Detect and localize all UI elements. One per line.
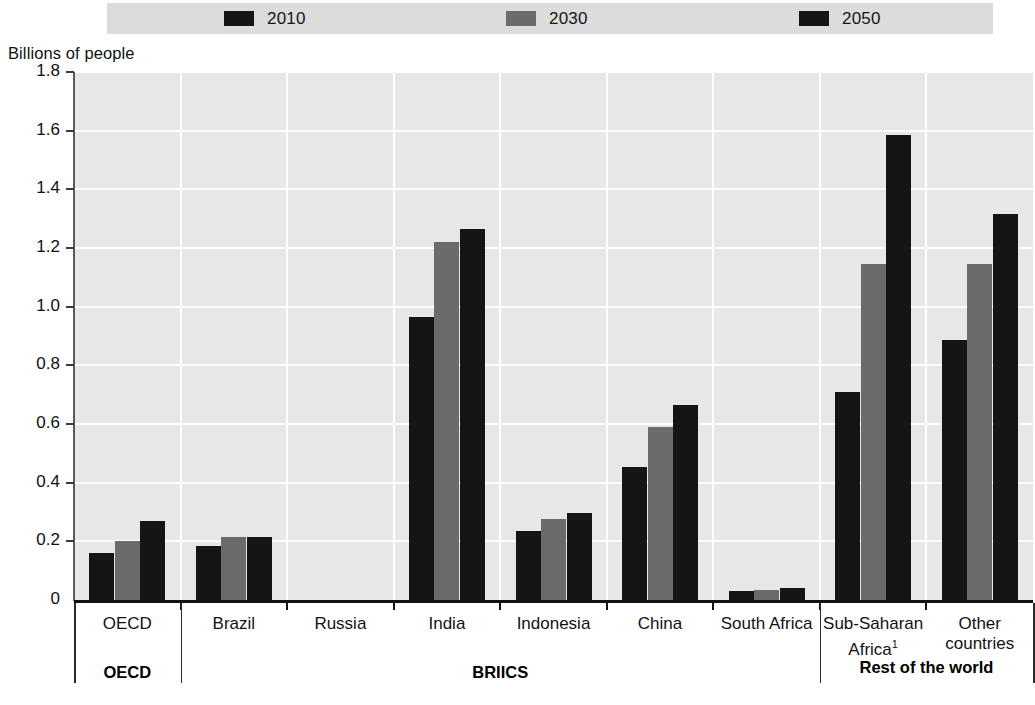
y-axis-tick — [66, 482, 74, 484]
legend-item-2030: 2030 — [506, 3, 588, 34]
x-axis-tick — [393, 603, 395, 610]
legend-item-2050: 2050 — [799, 3, 881, 34]
gridline-vertical — [819, 72, 821, 600]
bar-2030 — [754, 590, 779, 600]
bar-2050 — [140, 521, 165, 600]
bar-2050 — [567, 513, 592, 600]
x-axis-tick — [712, 603, 714, 610]
x-axis-line — [74, 600, 1033, 603]
y-axis-tick-label: 0 — [4, 589, 60, 609]
y-axis-tick-label: 1.6 — [4, 120, 60, 140]
bar-2030 — [115, 541, 140, 600]
gridline-vertical — [925, 72, 927, 600]
legend-label-2050: 2050 — [842, 9, 881, 29]
plot-frame — [74, 72, 1033, 600]
bar-2030 — [861, 264, 886, 600]
bar-2030 — [541, 519, 566, 600]
y-axis-tick — [66, 364, 74, 366]
y-axis-line — [73, 72, 75, 601]
bar-2010 — [942, 340, 967, 600]
legend-swatch-2030 — [506, 11, 536, 26]
y-axis-tick — [66, 540, 74, 542]
category-label-india: India — [394, 614, 501, 634]
bar-2010 — [516, 531, 541, 600]
gridline-vertical — [499, 72, 501, 600]
legend-swatch-2010 — [224, 11, 254, 26]
bar-2050 — [993, 214, 1018, 600]
bar-2010 — [409, 317, 434, 600]
y-axis-tick-label: 0.8 — [4, 354, 60, 374]
bar-2010 — [196, 546, 221, 600]
legend-swatch-2050 — [799, 11, 829, 26]
bar-2030 — [648, 427, 673, 600]
bar-2030 — [221, 537, 246, 600]
y-axis-tick-label: 1.4 — [4, 178, 60, 198]
bar-2030 — [434, 242, 459, 600]
bar-2050 — [886, 135, 911, 600]
bar-2050 — [460, 229, 485, 600]
x-axis-tick — [286, 603, 288, 610]
y-axis-tick-label: 1.2 — [4, 237, 60, 257]
y-axis-tick — [66, 247, 74, 249]
group-label-briics: BRIICS — [181, 663, 820, 682]
category-label-south-africa: South Africa — [713, 614, 820, 634]
gridline-horizontal — [74, 130, 1033, 132]
bar-2050 — [780, 588, 805, 600]
gridline-vertical — [712, 72, 714, 600]
y-axis-tick — [66, 306, 74, 308]
legend-label-2010: 2010 — [267, 9, 306, 29]
y-axis-tick-label: 0.6 — [4, 413, 60, 433]
group-label-oecd: OECD — [74, 663, 181, 682]
gridline-horizontal — [74, 72, 1033, 73]
bar-2030 — [967, 264, 992, 600]
legend-label-2030: 2030 — [549, 9, 588, 29]
bar-2010 — [835, 392, 860, 600]
x-axis-tick — [606, 603, 608, 610]
y-axis-tick-label: 0.2 — [4, 530, 60, 550]
group-divider — [181, 603, 183, 683]
category-label-oecd: OECD — [74, 614, 181, 634]
x-axis-tick — [499, 603, 501, 610]
group-divider — [820, 603, 822, 683]
bar-2010 — [622, 467, 647, 600]
category-label-china: China — [607, 614, 714, 634]
y-axis-tick-label: 1.8 — [4, 61, 60, 81]
y-axis-tick-label: 0.4 — [4, 472, 60, 492]
category-label-brazil: Brazil — [181, 614, 288, 634]
category-label-russia: Russia — [287, 614, 394, 634]
y-axis-tick — [66, 130, 74, 132]
bar-2010 — [89, 553, 114, 600]
y-axis-tick — [66, 71, 74, 73]
category-label-sub-saharan-africa: Sub-SaharanAfrica1 — [820, 614, 927, 660]
bar-2050 — [247, 537, 272, 600]
y-axis-tick-label: 1.0 — [4, 296, 60, 316]
category-label-other-countries: Othercountries — [926, 614, 1033, 654]
x-axis-tick — [925, 603, 927, 610]
group-label-rest-of-the-world: Rest of the world — [820, 658, 1033, 677]
y-axis-tick — [66, 188, 74, 190]
gridline-vertical — [606, 72, 608, 600]
gridline-vertical — [180, 72, 182, 600]
group-divider — [74, 603, 76, 683]
gridline-vertical — [393, 72, 395, 600]
legend-item-2010: 2010 — [224, 3, 306, 34]
bar-2050 — [673, 405, 698, 600]
chart-legend: 2010 2030 2050 — [107, 3, 993, 34]
y-axis-tick — [66, 423, 74, 425]
gridline-vertical — [286, 72, 288, 600]
group-divider — [1033, 603, 1035, 683]
bar-2010 — [729, 591, 754, 600]
category-label-indonesia: Indonesia — [500, 614, 607, 634]
plot-area — [74, 72, 1033, 600]
